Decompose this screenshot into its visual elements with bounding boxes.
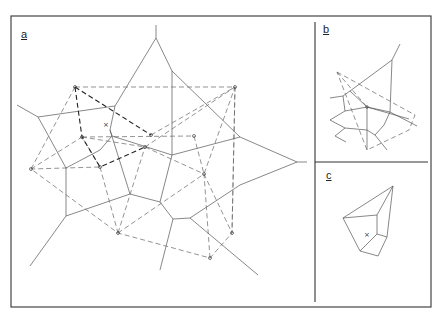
panel-c-diagram: × xyxy=(343,186,393,256)
panel-a-label: a xyxy=(21,28,27,40)
panel-c-label: c xyxy=(326,169,332,181)
svg-text:×: × xyxy=(364,231,370,239)
panel-b-label: b xyxy=(323,23,329,35)
svg-text:×: × xyxy=(103,121,109,129)
panel-b-diagram xyxy=(330,44,417,150)
diagram-canvas: × × xyxy=(0,0,442,318)
figure-frame xyxy=(11,16,431,307)
panel-a-voronoi xyxy=(17,25,307,275)
panel-a-sites: × xyxy=(30,86,237,260)
